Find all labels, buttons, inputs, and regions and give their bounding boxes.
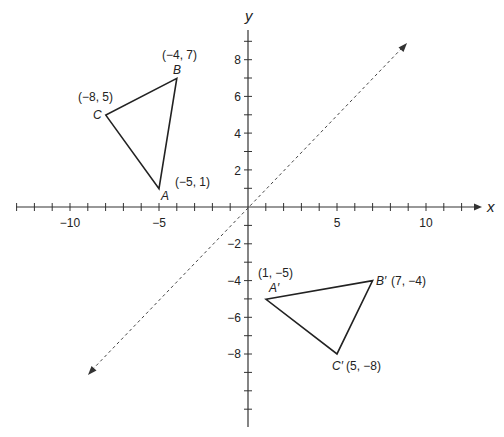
y-axis-label: y [244,7,254,24]
vertex-label-a-prime: A′ [268,281,280,295]
y-tick-label: 8 [234,53,241,67]
y-tick-label: −2 [227,237,241,251]
x-tick-label: −5 [152,216,166,230]
triangle-a-prime-b-prime-c-prime: A′ (1, −5) B′ (7, −4) C′ (5, −8) [258,266,426,373]
x-axis-label: x [486,198,495,215]
x-tick-label: −10 [60,216,81,230]
x-tick-label: 5 [334,216,341,230]
y-tick-label: −4 [227,274,241,288]
arrowhead-icon [399,43,408,52]
coordinate-plane: −10 −5 5 10 x 8 [0,0,504,437]
coord-label-a-prime: (1, −5) [258,266,293,280]
coord-label-c: (−8, 5) [78,90,113,104]
x-tick-label: 10 [419,216,433,230]
coord-label-c-prime: (5, −8) [346,359,381,373]
coord-label-a: (−5, 1) [175,175,210,189]
coord-label-b: (−4, 7) [162,48,197,62]
arrowhead-icon [88,366,97,375]
y-tick-label: 6 [234,90,241,104]
vertex-label-c-prime: C′ [332,359,344,373]
y-tick-label: 4 [234,127,241,141]
coord-label-b-prime: (7, −4) [391,274,426,288]
x-axis: −10 −5 5 10 x [16,198,495,230]
y-tick-label: 2 [234,164,241,178]
vertex-label-a: A [160,189,169,203]
y-axis: 8 6 4 2 −2 −4 −6 −8 y [227,7,254,427]
vertex-label-b-prime: B′ [376,274,387,288]
y-tick-label: −8 [227,347,241,361]
triangle-abc: A (−5, 1) B (−4, 7) C (−8, 5) [78,48,210,203]
vertex-label-c: C [93,108,102,122]
y-tick-label: −6 [227,311,241,325]
vertex-label-b: B [173,63,181,77]
